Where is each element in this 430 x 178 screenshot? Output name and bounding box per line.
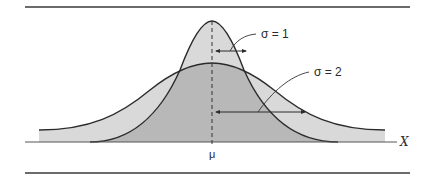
sigma-1-label: σ = 1 xyxy=(261,27,289,41)
sigma-2-label: σ = 2 xyxy=(314,65,342,79)
mean-label: μ xyxy=(209,148,215,160)
normal-distribution-diagram: σ = 1 σ = 2 μ X xyxy=(0,0,430,178)
x-axis-label: X xyxy=(399,135,409,149)
